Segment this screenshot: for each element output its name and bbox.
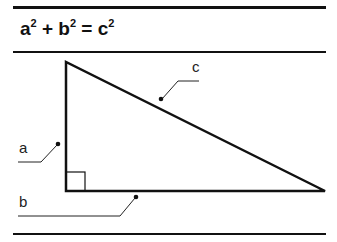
label-a: a xyxy=(19,139,27,156)
right-triangle-diagram xyxy=(0,0,337,242)
label-b: b xyxy=(19,193,27,210)
label-c: c xyxy=(192,58,200,75)
right-angle-marker xyxy=(66,172,85,191)
